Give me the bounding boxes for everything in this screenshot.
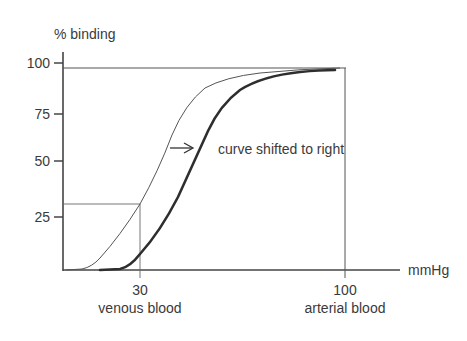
- x-axis-label: mmHg: [408, 262, 449, 278]
- x-tick-label-30: 30: [132, 282, 148, 298]
- venous-blood-label: venous blood: [98, 300, 181, 316]
- y-axis-label: % binding: [54, 26, 116, 42]
- y-tick-label-100: 100: [27, 55, 51, 71]
- y-tick-label-25: 25: [34, 209, 50, 225]
- oxygen-dissociation-chart: % binding 100 75 50 25 curve shifted to …: [0, 0, 467, 341]
- y-tick-label-50: 50: [34, 153, 50, 169]
- shift-annotation: curve shifted to right: [218, 141, 344, 157]
- shifted-curve: [100, 70, 335, 270]
- y-tick-label-75: 75: [34, 106, 50, 122]
- normal-curve: [66, 68, 340, 270]
- arterial-blood-label: arterial blood: [305, 300, 386, 316]
- x-tick-label-100: 100: [333, 282, 357, 298]
